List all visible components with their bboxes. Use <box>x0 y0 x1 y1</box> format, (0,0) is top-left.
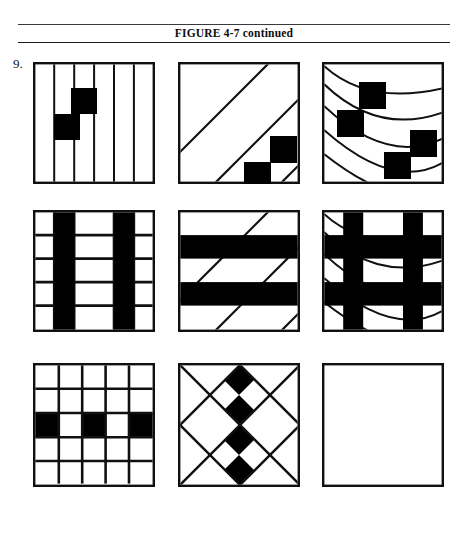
cell-border <box>179 211 299 331</box>
filled-column <box>114 212 134 329</box>
cell-border[interactable] <box>323 364 443 486</box>
matrix-cell-r3c3-answer-slot[interactable] <box>322 363 444 487</box>
filled-column <box>54 212 74 329</box>
cell-border <box>323 211 443 331</box>
filled-square-mark <box>244 162 271 184</box>
matrix-cell-r1c3 <box>322 62 444 184</box>
matrix-cell-r2c1 <box>33 210 155 332</box>
nested-arcs-with-four-squares-figure <box>322 62 444 184</box>
filled-square-mark <box>54 114 80 140</box>
diamond-lattice-black-center-figure <box>178 363 300 487</box>
filled-band <box>180 235 297 259</box>
filled-square-mark <box>270 136 297 163</box>
filled-cell <box>35 413 58 437</box>
filled-cell <box>82 413 105 437</box>
filled-band <box>324 235 441 259</box>
filled-square-mark <box>384 152 411 179</box>
filled-cell <box>129 413 153 437</box>
matrix-puzzle-grid <box>0 0 468 540</box>
filled-band <box>180 282 297 306</box>
cell-border <box>34 211 154 331</box>
matrix-cell-r2c3 <box>322 210 444 332</box>
filled-square-mark <box>337 110 364 137</box>
matrix-cell-r1c1 <box>33 62 155 184</box>
matrix-cell-r1c2 <box>178 62 300 184</box>
empty-answer-box-figure[interactable] <box>322 363 444 487</box>
filled-column <box>403 212 423 329</box>
filled-band <box>324 282 441 306</box>
filled-square-mark <box>410 130 437 157</box>
diagonal-stripes-with-two-squares-figure <box>178 62 300 184</box>
vertical-stripes-with-two-squares-figure <box>33 62 155 184</box>
matrix-cell-r3c1 <box>33 363 155 487</box>
matrix-cell-r3c2 <box>178 363 300 487</box>
filled-cell-group <box>35 413 152 437</box>
filled-square-mark <box>359 82 386 109</box>
vertical-stripes-black-columns-figure <box>33 210 155 332</box>
filled-square-mark <box>71 88 97 114</box>
square-grid-black-middle-row-figure <box>33 363 155 487</box>
filled-column <box>343 212 363 329</box>
cell-border <box>179 63 299 183</box>
nested-arcs-black-grid-figure <box>322 210 444 332</box>
matrix-cell-r2c2 <box>178 210 300 332</box>
diagonal-stripes-black-bands-figure <box>178 210 300 332</box>
